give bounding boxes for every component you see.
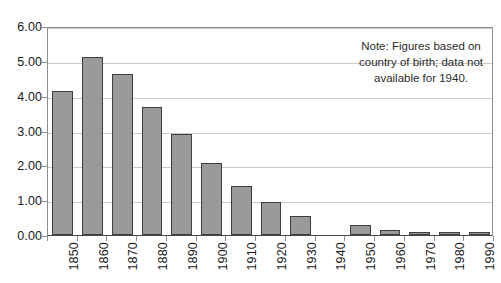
y-tick-label: 5.00 [0, 56, 42, 69]
x-tick-mark [47, 236, 48, 241]
x-tick-mark [166, 236, 167, 241]
x-tick-label-1960: 1960 [395, 242, 408, 271]
bar-1920 [261, 202, 282, 235]
bar-1970 [409, 232, 430, 235]
x-tick-label-1990: 1990 [484, 242, 497, 271]
y-axis: 0.00 1.00 2.00 3.00 4.00 5.00 6.00 [0, 0, 42, 283]
y-tick-label: 4.00 [0, 91, 42, 104]
bar-1960 [380, 230, 401, 235]
bar-1860 [82, 57, 103, 235]
x-tick-label-1870: 1870 [127, 242, 140, 271]
x-tick-mark [404, 236, 405, 241]
x-tick-label-1900: 1900 [217, 242, 230, 271]
x-tick-mark [285, 236, 286, 241]
x-tick-mark [255, 236, 256, 241]
chart-note-line: country of birth; data not [352, 54, 490, 70]
bar-1950 [350, 225, 371, 235]
x-tick-label-1980: 1980 [454, 242, 467, 271]
bar-1890 [171, 134, 192, 235]
x-tick-label-1890: 1890 [187, 242, 200, 271]
x-tick-label-1920: 1920 [276, 242, 289, 271]
x-tick-label-1880: 1880 [157, 242, 170, 271]
chart-note-line: available for 1940. [352, 70, 490, 86]
x-tick-mark [225, 236, 226, 241]
bar-1930 [290, 216, 311, 235]
x-tick-mark [136, 236, 137, 241]
x-tick-label-1860: 1860 [98, 242, 111, 271]
x-tick-mark [434, 236, 435, 241]
x-tick-label-1910: 1910 [246, 242, 259, 271]
x-axis: 1850186018701880189019001910192019301940… [47, 242, 493, 283]
bar-1900 [201, 163, 222, 235]
bar-1910 [231, 186, 252, 235]
x-tick-mark [106, 236, 107, 241]
x-tick-mark [493, 236, 494, 241]
x-tick-label-1950: 1950 [365, 242, 378, 271]
bar-chart: 0.00 1.00 2.00 3.00 4.00 5.00 6.00 18501… [0, 0, 501, 283]
bar-1980 [439, 232, 460, 235]
y-tick-label: 6.00 [0, 21, 42, 34]
chart-note: Note: Figures based on country of birth;… [352, 38, 490, 86]
bar-1870 [112, 74, 133, 235]
y-tick-label: 1.00 [0, 195, 42, 208]
x-tick-label-1850: 1850 [68, 242, 81, 271]
x-tick-label-1940: 1940 [335, 242, 348, 271]
x-tick-mark [374, 236, 375, 241]
x-tick-label-1930: 1930 [306, 242, 319, 271]
x-tick-mark [196, 236, 197, 241]
bar-1990 [469, 232, 490, 235]
bar-1880 [142, 107, 163, 235]
y-tick-label: 3.00 [0, 126, 42, 139]
x-tick-mark [77, 236, 78, 241]
x-tick-mark [344, 236, 345, 241]
chart-note-line: Note: Figures based on [352, 38, 490, 54]
x-tick-label-1970: 1970 [425, 242, 438, 271]
x-tick-mark [463, 236, 464, 241]
y-tick-label: 0.00 [0, 230, 42, 243]
x-tick-mark [315, 236, 316, 241]
bar-1850 [52, 91, 73, 235]
y-tick-label: 2.00 [0, 160, 42, 173]
